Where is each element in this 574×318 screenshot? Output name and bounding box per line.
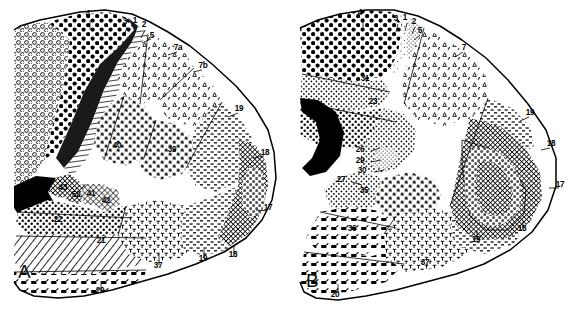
area-label-2: 2 — [412, 17, 417, 26]
area-label-7: 7 — [462, 43, 467, 52]
area-label-17: 17 — [264, 203, 273, 212]
area-label-31: 31 — [361, 74, 370, 83]
figure-canvas: 431257a7b191817181937202122403943524142 … — [0, 0, 574, 318]
area-label-21: 21 — [97, 236, 106, 245]
area-label-37: 37 — [421, 258, 430, 267]
area-label-43: 43 — [59, 183, 68, 192]
area-label-52: 52 — [72, 190, 81, 199]
panel-a-letter: A — [18, 261, 31, 282]
area-label-19: 19 — [472, 235, 481, 244]
area-label-23: 23 — [369, 97, 378, 106]
area-label-26: 26 — [356, 145, 365, 154]
area-label-18: 18 — [547, 139, 556, 148]
area-label-22: 22 — [54, 215, 63, 224]
brain-cytoarchitecture-figure: 431257a7b191817181937202122403943524142 … — [0, 0, 574, 318]
area-label-5: 5 — [150, 31, 155, 40]
area-label-19: 19 — [235, 104, 244, 113]
area-label-2: 2 — [142, 20, 147, 29]
area-label-36: 36 — [348, 224, 357, 233]
area-label-7a: 7a — [174, 43, 183, 52]
area-label-18: 18 — [229, 250, 238, 259]
area-label-37: 37 — [154, 261, 163, 270]
area-label-17: 17 — [556, 180, 565, 189]
area-label-29: 29 — [356, 156, 365, 165]
area-label-4: 4 — [358, 8, 363, 17]
area-label-19: 19 — [199, 254, 208, 263]
area-label-4: 4 — [86, 9, 91, 18]
panel-b-letter: B — [306, 270, 319, 291]
area-label-20: 20 — [96, 286, 105, 295]
area-label-20: 20 — [331, 290, 340, 299]
area-label-39: 39 — [168, 145, 177, 154]
area-label-5: 5 — [418, 26, 423, 35]
area-label-35: 35 — [360, 186, 369, 195]
area-label-40: 40 — [113, 141, 122, 150]
area-label-27: 27 — [337, 175, 346, 184]
area-label-3: 3 — [394, 14, 399, 23]
area-label-18: 18 — [261, 148, 270, 157]
area-label-1: 1 — [133, 16, 138, 25]
area-label-19: 19 — [526, 108, 535, 117]
area-label-41: 41 — [87, 189, 96, 198]
area-label-7b: 7b — [198, 61, 207, 70]
area-label-3: 3 — [123, 17, 128, 26]
area-label-42: 42 — [102, 196, 111, 205]
area-label-18: 18 — [518, 224, 527, 233]
area-label-30: 30 — [358, 166, 367, 175]
area-label-1: 1 — [403, 13, 408, 22]
